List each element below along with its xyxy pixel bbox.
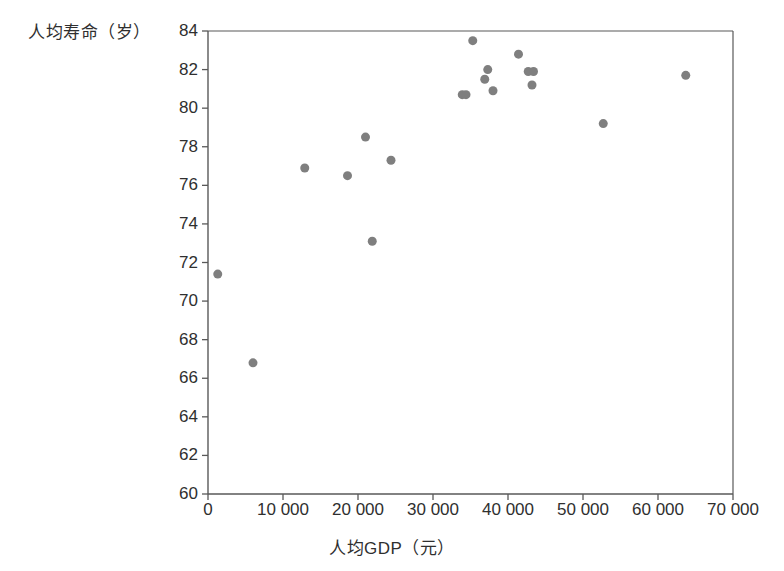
- data-point-series: [213, 36, 690, 367]
- data-point: [462, 90, 471, 99]
- data-point: [514, 50, 523, 59]
- axis-lines: [208, 31, 733, 494]
- data-point: [681, 71, 690, 80]
- data-point: [300, 163, 309, 172]
- data-point: [599, 119, 608, 128]
- data-point: [249, 358, 258, 367]
- plot-area: [0, 0, 784, 571]
- data-point: [343, 171, 352, 180]
- data-point: [387, 156, 396, 165]
- data-point: [529, 67, 538, 76]
- data-point: [468, 36, 477, 45]
- data-point: [480, 75, 489, 84]
- data-point: [361, 133, 370, 142]
- data-point: [528, 81, 537, 90]
- tick-marks: [202, 31, 733, 500]
- data-point: [483, 65, 492, 74]
- data-point: [368, 237, 377, 246]
- scatter-chart: 人均寿命（岁） 人均GDP（元） 60626466687072747678808…: [0, 0, 784, 571]
- data-point: [213, 270, 222, 279]
- data-point: [489, 86, 498, 95]
